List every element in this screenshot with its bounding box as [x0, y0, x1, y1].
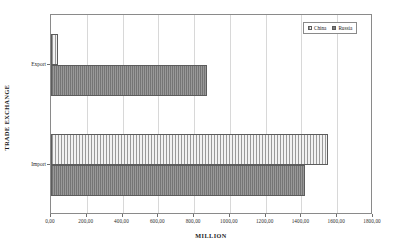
x-tick-label: 400,00: [114, 218, 129, 224]
x-tick-label: 600,00: [150, 218, 165, 224]
legend: ChinaRussia: [303, 22, 357, 34]
plot-area: [50, 14, 372, 214]
x-tick-mark: [50, 214, 51, 217]
x-tick-mark: [300, 214, 301, 217]
x-tick-label: 1200,00: [256, 218, 274, 224]
x-tick-label: 800,00: [186, 218, 201, 224]
x-tick-mark: [265, 214, 266, 217]
x-tick-mark: [193, 214, 194, 217]
y-tick-label-export: Export: [18, 61, 46, 67]
x-tick-label: 0,00: [45, 218, 54, 224]
x-tick-label: 1600,00: [327, 218, 345, 224]
x-axis-ticks: 0,00200,00400,00600,00800,001000,001200,…: [50, 214, 372, 230]
bar-export-russia: [51, 65, 207, 96]
x-tick-label: 1000,00: [220, 218, 238, 224]
bar-chart: TRADE EXCHANGE ExportImport 0,00200,0040…: [0, 0, 403, 250]
x-tick-mark: [229, 214, 230, 217]
legend-item-china: China: [308, 25, 326, 31]
x-tick-mark: [336, 214, 337, 217]
y-tick-label-import: Import: [18, 161, 46, 167]
x-tick-label: 200,00: [78, 218, 93, 224]
russia-pattern-swatch: [332, 26, 336, 30]
x-tick-mark: [157, 214, 158, 217]
bar-export-china: [51, 34, 58, 65]
bars-layer: [51, 15, 371, 213]
x-tick-mark: [86, 214, 87, 217]
x-tick-mark: [122, 214, 123, 217]
x-tick-label: 1400,00: [292, 218, 310, 224]
x-axis-title: MILLION: [50, 232, 372, 239]
x-tick-label: 1800,00: [363, 218, 381, 224]
legend-item-russia: Russia: [332, 25, 352, 31]
bar-import-china: [51, 134, 328, 165]
china-pattern-swatch: [308, 26, 312, 30]
x-tick-mark: [372, 214, 373, 217]
y-axis-title: TRADE EXCHANGE: [3, 85, 10, 151]
bar-import-russia: [51, 165, 305, 196]
legend-label: China: [314, 25, 326, 31]
legend-label: Russia: [338, 25, 352, 31]
